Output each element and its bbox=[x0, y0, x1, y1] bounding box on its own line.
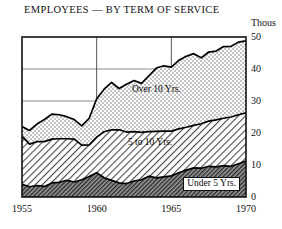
band-label: 5 to 10 Yrs. bbox=[126, 137, 175, 147]
x-tick-label: 1955 bbox=[4, 203, 40, 214]
chart-figure: EMPLOYEES — BY TERM OF SERVICE Thous bbox=[0, 0, 282, 229]
y-tick-label: 40 bbox=[251, 63, 261, 74]
y-tick-label: 20 bbox=[251, 127, 261, 138]
band-label: Under 5 Yrs. bbox=[183, 177, 240, 191]
y-axis-unit-label: Thous bbox=[251, 17, 276, 28]
y-tick-label: 10 bbox=[251, 159, 261, 170]
x-tick-label: 1965 bbox=[153, 203, 189, 214]
x-tick-label: 1960 bbox=[79, 203, 115, 214]
y-tick-label: 50 bbox=[251, 31, 261, 42]
chart-title: EMPLOYEES — BY TERM OF SERVICE bbox=[24, 4, 219, 15]
y-tick-label: 30 bbox=[251, 95, 261, 106]
x-tick-label: 1970 bbox=[228, 203, 264, 214]
plot-area bbox=[0, 0, 282, 229]
y-tick-label: 0 bbox=[251, 191, 256, 202]
band-label: Over 10 Yrs. bbox=[130, 84, 183, 94]
